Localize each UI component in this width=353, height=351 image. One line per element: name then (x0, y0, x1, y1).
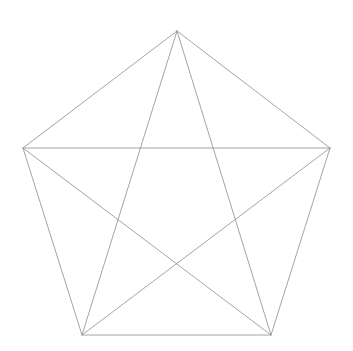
graph-edge-perimeter-top-right (177, 31, 330, 148)
graph-edge-perimeter-left-top (23, 31, 177, 148)
graph-edge-diagonal-left-bottomright (23, 148, 271, 335)
k5-graph-figure (0, 0, 353, 351)
graph-edge-perimeter-bottomleft-left (23, 148, 82, 335)
graph-edge-diagonal-right-bottomleft (82, 148, 330, 335)
edge-layer (23, 31, 330, 335)
graph-edge-diagonal-top-bottomright (177, 31, 271, 335)
graph-edge-diagonal-top-bottomleft (82, 31, 177, 335)
diagram-canvas (0, 0, 353, 351)
graph-edge-perimeter-right-bottomright (271, 148, 330, 335)
